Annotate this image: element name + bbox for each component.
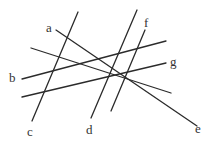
label-e: e (195, 121, 201, 136)
label-a: a (46, 20, 52, 35)
label-f: f (144, 15, 149, 30)
label-c: c (27, 124, 33, 139)
line-b (22, 41, 166, 79)
intersecting-lines-diagram: a b c d e f g (0, 0, 210, 145)
line-a (56, 30, 197, 126)
label-b: b (9, 70, 16, 85)
label-g: g (170, 54, 177, 69)
label-d: d (86, 122, 93, 137)
